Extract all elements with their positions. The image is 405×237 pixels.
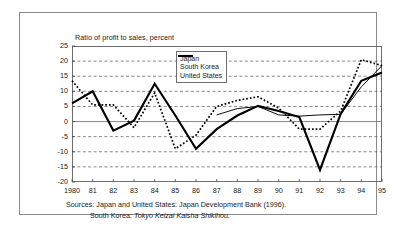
y-tick-label: 5 <box>42 103 68 110</box>
x-tick-label: 1980 <box>64 187 80 194</box>
y-tick-label: 20 <box>42 58 68 65</box>
x-tick-label: 81 <box>89 187 97 194</box>
legend-label-south-korea: South Korea <box>180 63 219 70</box>
y-tick-label: -15 <box>42 163 68 170</box>
chart-legend: Japan South Korea United States <box>176 51 227 83</box>
sources-line-1: Sources: Japan and United States: Japan … <box>66 200 286 211</box>
y-tick-label: -10 <box>42 148 68 155</box>
x-tick-label: 94 <box>357 187 365 194</box>
x-tick-label: 91 <box>295 187 303 194</box>
legend-key-dotted <box>177 52 194 60</box>
y-tick-label: 10 <box>42 88 68 95</box>
plot-area: 2520151050-5-10-15-20 198081828384858687… <box>72 46 382 182</box>
sources-line-2-prefix: South Korea: <box>90 211 134 220</box>
x-tick-label: 84 <box>151 187 159 194</box>
x-tick-label: 88 <box>233 187 241 194</box>
x-tick-label: 93 <box>337 187 345 194</box>
x-tick-label: 82 <box>109 187 117 194</box>
y-tick-label: 0 <box>42 118 68 125</box>
sources-line-2-italic: Tokyo Keizai Kaisha Shikihou. <box>134 211 230 220</box>
x-tick-label: 85 <box>171 187 179 194</box>
chart-title: Ratio of profit to sales, percent <box>75 33 174 42</box>
legend-item-united-states: United States <box>180 71 222 80</box>
x-tick-label: 86 <box>192 187 200 194</box>
legend-label-united-states: United States <box>180 72 222 79</box>
x-tick-label: 87 <box>213 187 221 194</box>
sources-line-2: South Korea: Tokyo Keizai Kaisha Shikiho… <box>66 211 286 222</box>
legend-item-south-korea: South Korea <box>180 63 222 72</box>
y-tick-label: -5 <box>42 133 68 140</box>
x-tick-label: 95 <box>378 187 386 194</box>
sources-note: Sources: Japan and United States: Japan … <box>66 200 286 221</box>
chart-frame: Ratio of profit to sales, percent 252015… <box>19 12 377 215</box>
y-tick-label: 25 <box>42 42 68 49</box>
x-tick-label: 89 <box>254 187 262 194</box>
y-tick-label: -20 <box>42 178 68 185</box>
x-tick-label: 90 <box>275 187 283 194</box>
y-tick-label: 15 <box>42 73 68 80</box>
x-tick-label: 83 <box>130 187 138 194</box>
x-tick-label: 92 <box>316 187 324 194</box>
